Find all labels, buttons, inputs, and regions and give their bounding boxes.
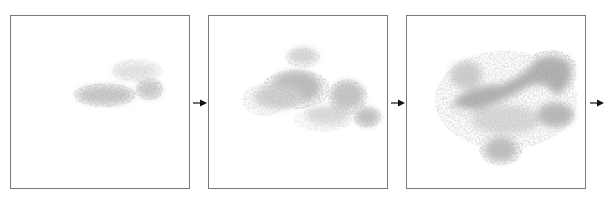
panel-stage-1 xyxy=(10,15,190,189)
arrow-right-icon xyxy=(590,99,604,107)
density-cloud-1 xyxy=(11,16,189,188)
density-cloud-3 xyxy=(407,16,585,188)
panel-stage-2 xyxy=(208,15,388,189)
arrow-right-icon xyxy=(193,99,207,107)
panel-stage-3 xyxy=(406,15,586,189)
arrow-right-icon xyxy=(391,99,405,107)
density-cloud-2 xyxy=(209,16,387,188)
